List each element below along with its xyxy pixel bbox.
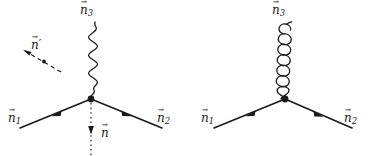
right-n3-label: n3 — [272, 4, 285, 18]
n-down-label: n — [101, 127, 109, 139]
n-down-symbol: n — [101, 127, 109, 139]
diagram-canvas — [0, 0, 372, 156]
right-outgoing-arrowhead — [314, 111, 324, 117]
right-n2-symbol: n — [344, 112, 352, 124]
right-vertex-dot — [282, 96, 289, 103]
left-n3-symbol: n — [80, 4, 88, 16]
right-n2-subscript: 2 — [352, 116, 357, 126]
left-n3-label: n3 — [80, 4, 93, 18]
n-down-arrowhead — [88, 126, 94, 135]
left-n1-label: n1 — [8, 112, 21, 126]
left-incoming-fermion-line — [20, 99, 91, 128]
left-n1-subscript: 1 — [16, 116, 21, 126]
photon-wavy-line — [89, 22, 98, 99]
right-n3-symbol: n — [272, 4, 280, 16]
gluon-coil-line — [276, 22, 291, 99]
right-n1-label: n1 — [201, 112, 214, 126]
n-prime-midpoint-dot — [42, 60, 46, 64]
left-vertex-dot — [88, 96, 95, 103]
left-n3-subscript: 3 — [88, 8, 93, 18]
right-n1-symbol: n — [201, 112, 209, 124]
feynman-diagram-figure: n3 n1 n2 n′ n n3 n1 n2 — [0, 0, 372, 156]
right-n3-subscript: 3 — [280, 8, 285, 18]
left-n2-symbol: n — [157, 112, 165, 124]
right-outgoing-fermion-line — [285, 99, 352, 128]
n-prime-symbol: n — [31, 39, 39, 51]
n-prime-label: n′ — [31, 38, 41, 51]
n-prime-mark: ′ — [39, 36, 42, 50]
right-incoming-fermion-line — [214, 99, 285, 128]
left-n2-subscript: 2 — [165, 116, 170, 126]
right-n2-label: n2 — [344, 112, 357, 126]
left-n1-symbol: n — [8, 112, 16, 124]
left-n2-label: n2 — [157, 112, 170, 126]
right-n1-subscript: 1 — [209, 116, 214, 126]
right-diagram-group — [214, 22, 352, 128]
